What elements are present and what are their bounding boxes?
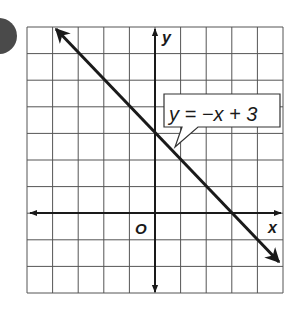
x-axis-label: x: [267, 219, 278, 236]
y-axis-label: y: [161, 29, 172, 46]
equation-label: y = −x + 3: [167, 103, 257, 125]
origin-label: O: [135, 220, 147, 237]
equation-line: [56, 29, 279, 262]
equation-callout: y = −x + 3: [164, 94, 280, 147]
coordinate-graph: y x O y = −x + 3: [0, 0, 305, 317]
